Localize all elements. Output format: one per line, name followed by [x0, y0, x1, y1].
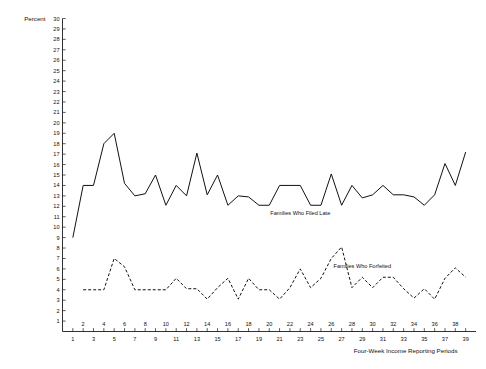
- y-tick-label: 5: [56, 276, 59, 282]
- x-tick-label-upper: 32: [390, 321, 396, 327]
- y-tick-label: 3: [56, 297, 59, 303]
- y-tick-label: 23: [53, 89, 59, 95]
- x-tick-label-upper: 2: [82, 321, 85, 327]
- series-line-filed-late: [73, 133, 466, 237]
- x-tick-label-upper: 8: [144, 321, 147, 327]
- y-tick-label: 25: [53, 68, 59, 74]
- series-line-forfeited: [83, 247, 465, 299]
- y-tick-label: 1: [56, 318, 59, 324]
- x-tick-label-upper: 24: [307, 321, 313, 327]
- x-tick-label-upper: 6: [123, 321, 126, 327]
- x-tick-label-lower: 31: [380, 336, 386, 342]
- x-tick-label-upper: 14: [204, 321, 210, 327]
- y-tick-label: 24: [53, 78, 59, 84]
- y-axis-title: Percent: [24, 15, 46, 22]
- series-label-filed-late: Families Who Filed Late: [270, 210, 330, 216]
- x-tick-label-lower: 29: [359, 336, 365, 342]
- chart-container: 1234567891011121314151617181920212223242…: [0, 0, 486, 369]
- x-tick-label-lower: 15: [214, 336, 220, 342]
- x-tick-label-lower: 7: [133, 336, 136, 342]
- y-tick-label: 30: [53, 16, 59, 22]
- y-tick-label: 6: [56, 266, 59, 272]
- x-tick-label-upper: 36: [432, 321, 438, 327]
- y-axis-tick-labels: 1234567891011121314151617181920212223242…: [53, 16, 59, 325]
- x-tick-label-upper: 10: [163, 321, 169, 327]
- x-tick-label-upper: 16: [225, 321, 231, 327]
- chart-series: [73, 133, 466, 299]
- y-tick-label: 14: [53, 182, 59, 188]
- x-tick-label-lower: 3: [92, 336, 95, 342]
- y-tick-label: 29: [53, 26, 59, 32]
- x-tick-label-lower: 9: [154, 336, 157, 342]
- y-tick-label: 18: [53, 141, 59, 147]
- y-tick-label: 7: [56, 255, 59, 261]
- x-tick-label-lower: 25: [318, 336, 324, 342]
- x-tick-label-lower: 21: [276, 336, 282, 342]
- x-tick-label-lower: 23: [297, 336, 303, 342]
- x-tick-label-upper: 30: [370, 321, 376, 327]
- y-tick-label: 27: [53, 47, 59, 53]
- y-tick-label: 15: [53, 172, 59, 178]
- x-tick-label-upper: 12: [183, 321, 189, 327]
- line-chart: 1234567891011121314151617181920212223242…: [0, 0, 486, 369]
- x-tick-label-upper: 20: [266, 321, 272, 327]
- x-tick-label-lower: 37: [442, 336, 448, 342]
- x-tick-label-lower: 35: [421, 336, 427, 342]
- y-tick-label: 17: [53, 151, 59, 157]
- x-tick-label-upper: 18: [245, 321, 251, 327]
- x-tick-label-lower: 17: [235, 336, 241, 342]
- x-tick-label-upper: 38: [452, 321, 458, 327]
- y-tick-label: 11: [54, 214, 60, 220]
- x-tick-label-lower: 13: [194, 336, 200, 342]
- x-tick-label-upper: 28: [349, 321, 355, 327]
- y-tick-label: 21: [53, 109, 59, 115]
- y-tick-label: 2: [56, 308, 59, 314]
- chart-axes: [63, 19, 477, 332]
- y-tick-label: 12: [53, 203, 59, 209]
- y-tick-label: 28: [53, 36, 59, 42]
- y-tick-label: 20: [53, 120, 59, 126]
- x-tick-label-upper: 4: [102, 321, 105, 327]
- x-tick-label-upper: 34: [411, 321, 417, 327]
- series-label-forfeited: Families Who Forfeited: [334, 263, 392, 269]
- x-tick-label-upper: 26: [328, 321, 334, 327]
- y-tick-label: 26: [53, 57, 59, 63]
- x-tick-label-upper: 22: [287, 321, 293, 327]
- y-tick-label: 9: [56, 235, 59, 241]
- y-tick-label: 13: [53, 193, 59, 199]
- y-tick-label: 16: [53, 162, 59, 168]
- x-tick-label-lower: 33: [401, 336, 407, 342]
- y-tick-label: 19: [53, 130, 59, 136]
- x-tick-label-lower: 5: [113, 336, 116, 342]
- x-tick-label-lower: 39: [463, 336, 469, 342]
- x-tick-label-lower: 27: [338, 336, 344, 342]
- y-tick-label: 10: [53, 224, 59, 230]
- x-tick-label-lower: 11: [173, 336, 179, 342]
- x-tick-label-lower: 19: [256, 336, 262, 342]
- y-tick-label: 4: [56, 287, 59, 293]
- y-tick-label: 8: [56, 245, 59, 251]
- x-tick-label-lower: 1: [71, 336, 74, 342]
- x-axis-title: Four-Week Income Reporting Periods: [354, 347, 458, 354]
- y-tick-label: 22: [53, 99, 59, 105]
